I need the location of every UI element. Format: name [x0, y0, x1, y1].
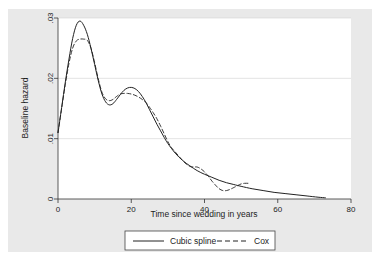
- chart-legend: Cubic spline Cox: [125, 231, 275, 250]
- x-tick-label: 80: [347, 205, 356, 214]
- y-tick-label: .01: [46, 133, 55, 145]
- x-tick-label: 60: [273, 205, 282, 214]
- y-axis-title: Baseline hazard: [20, 77, 30, 138]
- baseline-hazard-chart: 020406080 0.01.02.03 Time since wedding …: [0, 0, 380, 267]
- x-axis-ticks: [58, 199, 351, 203]
- y-tick-label: .03: [46, 12, 55, 24]
- chart-figure: 020406080 0.01.02.03 Time since wedding …: [0, 0, 380, 267]
- y-axis-ticks: [54, 18, 58, 199]
- y-axis-tick-labels: 0.01.02.03: [46, 12, 55, 201]
- y-tick-label: .02: [46, 72, 55, 84]
- legend-label-cubic-spline: Cubic spline: [170, 236, 217, 246]
- y-tick-label: 0: [46, 196, 55, 201]
- legend-label-cox: Cox: [254, 236, 270, 246]
- x-axis-title: Time since wedding in years: [151, 209, 258, 219]
- x-tick-label: 20: [127, 205, 136, 214]
- x-tick-label: 0: [56, 205, 61, 214]
